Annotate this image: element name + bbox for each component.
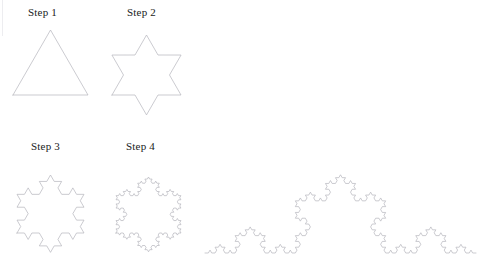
step-3-snowflake — [17, 175, 84, 252]
koch-figure: Step 1 Step 2 Step 3 Step 4 — [0, 0, 481, 265]
fractal-canvas — [0, 0, 481, 265]
step-label-4: Step 4 — [126, 141, 155, 152]
step-2-star — [112, 35, 181, 115]
step-label-3: Step 3 — [31, 141, 60, 152]
step-4-snowflake — [116, 177, 181, 252]
step-label-1: Step 1 — [28, 7, 57, 18]
large-koch-curve — [205, 175, 476, 253]
step-label-2: Step 2 — [127, 7, 156, 18]
step-1-triangle — [13, 30, 88, 95]
